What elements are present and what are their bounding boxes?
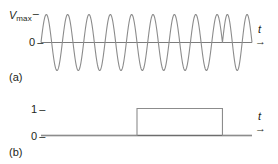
panel-b-one-value: 1 [31, 103, 37, 115]
panel-b-caption: (b) [9, 147, 22, 158]
panel-b-one-tick-dash: – [39, 103, 45, 115]
panel-a-ymax-label: Vmax– [9, 8, 39, 23]
panel-b-zero-value: 0 [31, 130, 37, 142]
panel-b-xaxis-arrow-icon: → [255, 123, 266, 134]
panel-b-yzero-label: 0– [31, 131, 45, 142]
panel-a-xaxis-label: t [258, 24, 261, 35]
digital-pulse-path [41, 109, 252, 136]
panel-a-zero-value: 0 [29, 36, 35, 48]
panel-b-zero-tick-dash: – [39, 130, 45, 142]
panel-b-yhigh-label: 1– [31, 104, 45, 115]
panel-a-yzero-label: 0– [29, 37, 43, 48]
panel-a-xaxis-arrow-icon: → [255, 36, 266, 47]
panel-b-xaxis-label: t [258, 111, 261, 122]
panel-b-plot [41, 109, 252, 136]
vmax-tick-dash: – [33, 7, 39, 19]
panel-a-caption: (a) [9, 72, 22, 83]
vmax-subscript: max [16, 14, 31, 23]
panel-a-plot [41, 15, 252, 71]
panel-a-zero-tick-dash: – [37, 36, 43, 48]
